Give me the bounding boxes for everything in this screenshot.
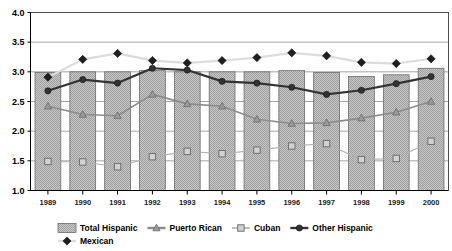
bar-total-hispanic — [105, 72, 131, 191]
legend-item-total-hispanic[interactable]: Total Hispanic — [58, 223, 138, 233]
x-tick-label: 1998 — [353, 198, 370, 207]
y-tick-label: 1.5 — [12, 156, 25, 166]
legend-item-other-hispanic[interactable]: Other Hispanic — [290, 223, 373, 233]
legend-label: Total Hispanic — [80, 223, 138, 233]
x-tick-label: 1992 — [144, 198, 161, 207]
bar-total-hispanic — [140, 71, 166, 191]
data-point-marker — [63, 237, 71, 245]
data-point-marker — [238, 225, 244, 231]
x-axis-tick-labels: 1989199019911992199319941995199619971998… — [40, 198, 440, 207]
legend-label: Other Hispanic — [312, 223, 373, 233]
data-point-marker — [149, 153, 155, 159]
data-point-marker — [254, 147, 260, 153]
data-point-marker — [184, 148, 190, 154]
chart-container: 1.01.52.02.53.03.54.0 198919901991199219… — [0, 0, 452, 251]
data-point-marker — [80, 76, 86, 82]
data-point-marker — [393, 81, 399, 87]
data-point-marker — [358, 87, 364, 93]
bar-total-hispanic — [209, 72, 235, 191]
y-tick-label: 3.0 — [12, 67, 25, 77]
data-point-marker — [149, 65, 155, 71]
data-point-marker — [219, 78, 225, 84]
legend: Total HispanicPuerto RicanCubanOther His… — [58, 223, 373, 246]
data-point-marker — [114, 80, 120, 86]
x-tick-label: 1997 — [318, 198, 335, 207]
legend-item-cuban[interactable]: Cuban — [232, 223, 280, 233]
data-point-marker — [393, 155, 399, 161]
legend-item-puerto-rican[interactable]: Puerto Rican — [147, 223, 221, 233]
bar-total-hispanic — [418, 68, 444, 190]
data-point-marker — [254, 80, 260, 86]
bar-total-hispanic — [314, 72, 340, 190]
data-point-marker — [428, 138, 434, 144]
x-tick-label: 1999 — [388, 198, 405, 207]
y-tick-label: 2.0 — [12, 126, 25, 136]
data-point-marker — [323, 140, 329, 146]
data-point-marker — [45, 88, 51, 94]
legend-label: Puerto Rican — [169, 223, 221, 233]
y-axis-tick-labels: 1.01.52.02.53.03.54.0 — [12, 8, 25, 196]
y-tick-label: 2.5 — [12, 97, 25, 107]
x-tick-label: 2000 — [423, 198, 440, 207]
data-point-marker — [296, 225, 302, 231]
bar-total-hispanic — [383, 75, 409, 191]
data-point-marker — [80, 159, 86, 165]
y-tick-label: 1.0 — [12, 186, 25, 196]
bar-total-hispanic — [349, 77, 375, 191]
x-tick-label: 1993 — [179, 198, 196, 207]
x-tick-label: 1991 — [109, 198, 126, 207]
data-point-marker — [358, 156, 364, 162]
chart-svg: 1.01.52.02.53.03.54.0 198919901991199219… — [0, 0, 452, 251]
data-point-marker — [428, 73, 434, 79]
y-tick-label: 4.0 — [12, 8, 25, 18]
legend-label: Cuban — [254, 223, 280, 233]
data-point-marker — [323, 91, 329, 97]
x-tick-label: 1995 — [249, 198, 266, 207]
data-point-marker — [289, 84, 295, 90]
data-point-marker — [219, 151, 225, 157]
bar-total-hispanic — [70, 72, 96, 191]
y-tick-label: 3.5 — [12, 37, 25, 47]
x-tick-label: 1990 — [74, 198, 91, 207]
data-point-marker — [45, 158, 51, 164]
x-tick-label: 1994 — [214, 198, 232, 207]
x-tick-label: 1989 — [40, 198, 57, 207]
legend-swatch-bar — [58, 224, 76, 233]
bar-total-hispanic — [174, 72, 200, 191]
legend-label: Mexican — [80, 236, 114, 246]
data-point-marker — [289, 143, 295, 149]
legend-item-mexican[interactable]: Mexican — [58, 236, 114, 246]
data-point-marker — [184, 67, 190, 73]
x-tick-label: 1996 — [283, 198, 300, 207]
data-point-marker — [114, 164, 120, 170]
bar-total-hispanic — [244, 72, 270, 191]
